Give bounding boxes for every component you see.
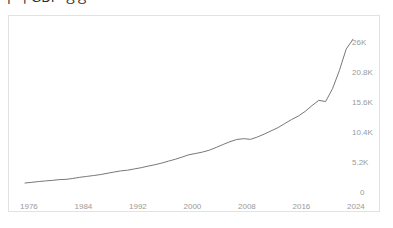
x-axis-tick-label: 2024 [347, 202, 365, 211]
x-axis-tick-label: 1984 [75, 202, 93, 211]
x-axis-tick-label: 1976 [20, 202, 38, 211]
x-axis-tick-labels: 1976198419922000200820162024 [0, 0, 393, 228]
x-axis-tick-label: 2016 [293, 202, 311, 211]
x-axis-tick-label: 1992 [129, 202, 147, 211]
x-axis-tick-label: 2000 [184, 202, 202, 211]
x-axis-tick-label: 2008 [238, 202, 256, 211]
